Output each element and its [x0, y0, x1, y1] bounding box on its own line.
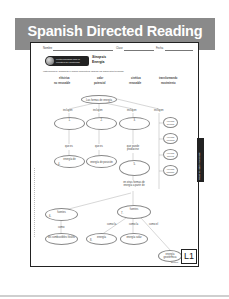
node-energia-de[interactable]: energía de 4. — [54, 155, 85, 168]
node-blank-5[interactable]: 5. — [119, 160, 150, 176]
side-tab: Reading Additional Needs — [197, 138, 204, 182]
node-energia-8[interactable]: energía 8. — [86, 233, 117, 245]
link-label: que es — [95, 145, 103, 148]
node-fuentes-6[interactable]: fuentes 6. — [45, 208, 78, 221]
link-label: incluyen — [154, 109, 164, 112]
level-badge: L1 — [181, 249, 197, 264]
footer-note: Energía — [171, 261, 178, 264]
link-label: incluyen — [127, 109, 137, 112]
node-fuentes-7[interactable]: fuentes 7. — [117, 205, 151, 219]
node-combustibles: los combustibles fósiles — [45, 233, 78, 245]
link-label: que es — [65, 145, 73, 148]
link-label: como — [58, 226, 64, 229]
side-item: energía nuclear — [163, 149, 178, 160]
link-label: incluyen — [63, 109, 73, 112]
side-item: energía eléctrica — [163, 133, 178, 144]
copyright-text — [34, 168, 35, 238]
page-divider — [0, 295, 229, 297]
link-label: como el — [149, 223, 158, 226]
side-item: energía radiante — [163, 165, 178, 176]
worksheet-page: Nombre Clase Fecha Lectura Dirigida para… — [30, 42, 199, 267]
link-label: como la — [129, 223, 138, 226]
banner-title: Spanish Directed Reading — [15, 23, 215, 39]
node-root: Las formas de energía — [81, 95, 117, 104]
node-blank-1[interactable]: 1. — [54, 117, 85, 130]
node-blank-3[interactable]: 3. — [119, 117, 150, 130]
side-item: energía química — [163, 117, 178, 128]
node-energia-solar: energía solar — [120, 233, 148, 245]
link-label: incluyen — [93, 109, 103, 112]
transform-text: en otras formas de energía a partir de — [123, 181, 145, 187]
link-label: como la — [107, 223, 116, 226]
node-energia-posicion: energía de posición — [86, 155, 117, 168]
node-blank-2[interactable]: 2. — [86, 117, 117, 130]
node-energia-geotermica: energía geotérmica — [158, 250, 182, 262]
link-label: que puede producirse — [125, 145, 141, 151]
